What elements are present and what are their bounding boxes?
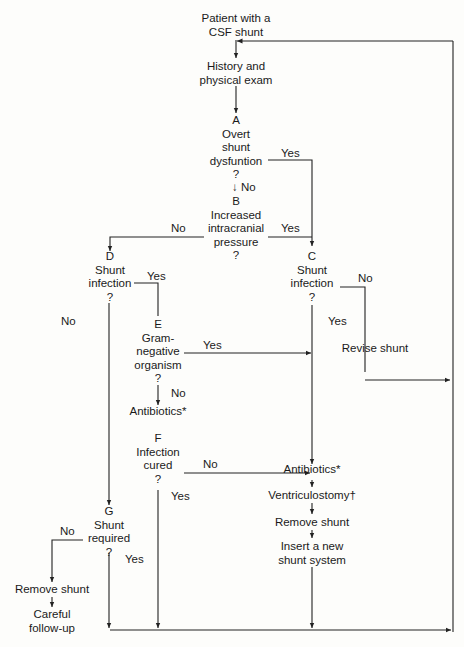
decision-b-letter: B (208, 195, 264, 209)
node-revise-shunt-label: Revise shunt (342, 342, 408, 356)
decision-c-line: Shunt (291, 264, 334, 278)
decision-e-letter: E (134, 318, 181, 332)
node-insert-new-shunt-line: shunt system (278, 554, 346, 568)
decision-c-line: infection (291, 277, 334, 291)
decision-d-letter: D (89, 250, 132, 264)
decision-d: D Shunt infection ? (89, 250, 132, 304)
decision-d-line: ? (89, 291, 132, 305)
edge-label-g-yes: Yes (125, 553, 144, 566)
decision-b-line: pressure (208, 236, 264, 250)
edge-label-d-no: No (61, 315, 76, 328)
flowchart: Patient with a CSF shunt History and phy… (0, 0, 464, 647)
decision-f-letter: F (136, 432, 179, 446)
node-start-line: Patient with a (201, 12, 270, 26)
decision-a-line: dysfuntion (210, 155, 262, 169)
decision-d-line: Shunt (89, 264, 132, 278)
edge-label-g-no: No (60, 525, 75, 538)
edge-label-f-yes: Yes (171, 490, 190, 503)
decision-c: C Shunt infection ? (291, 250, 334, 304)
decision-f-line: Infection (136, 446, 179, 460)
decision-e: E Gram- negative organism ? (134, 318, 181, 386)
decision-e-line: organism (134, 359, 181, 373)
node-start-line: CSF shunt (201, 26, 270, 40)
decision-g: G Shunt required ? (88, 505, 130, 559)
decision-g-line: required (88, 532, 130, 546)
decision-a-line: ? (210, 168, 262, 182)
edge-label-a-no: ↓ No (232, 181, 256, 194)
edge-label-f-no: No (203, 458, 218, 471)
node-careful-follow-up-line: follow-up (29, 622, 75, 636)
decision-f: F Infection cured ? (136, 432, 179, 486)
node-remove-shunt-c: Remove shunt (275, 516, 349, 530)
decision-g-letter: G (88, 505, 130, 519)
node-start: Patient with a CSF shunt (201, 12, 270, 39)
decision-b-line: Increased (208, 209, 264, 223)
decision-c-letter: C (291, 250, 334, 264)
decision-e-line: ? (134, 372, 181, 386)
edge-label-b-no: No (171, 222, 186, 235)
edge-label-c-no: No (358, 272, 373, 285)
edge-label-d-yes: Yes (147, 270, 166, 283)
decision-e-line: negative (134, 345, 181, 359)
decision-a-line: Overt (210, 128, 262, 142)
node-ventriculostomy-label: Ventriculostomy† (268, 489, 356, 503)
edge-label-e-yes: Yes (203, 339, 222, 352)
edge-label-c-yes: Yes (328, 315, 347, 328)
edge-label-a-yes: Yes (281, 147, 300, 160)
node-history-line: History and (200, 60, 273, 74)
node-antibiotics-e: Antibiotics* (130, 405, 187, 419)
decision-f-line: ? (136, 473, 179, 487)
node-remove-shunt-g-label: Remove shunt (15, 583, 89, 597)
node-remove-shunt-g: Remove shunt (15, 583, 89, 597)
decision-a: A Overt shunt dysfuntion ? (210, 114, 262, 182)
node-history: History and physical exam (200, 60, 273, 87)
decision-c-line: ? (291, 291, 334, 305)
node-insert-new-shunt: Insert a new shunt system (278, 540, 346, 567)
decision-e-line: Gram- (134, 332, 181, 346)
decision-d-line: infection (89, 277, 132, 291)
decision-f-line: cured (136, 459, 179, 473)
decision-g-line: Shunt (88, 519, 130, 533)
decision-a-line: shunt (210, 141, 262, 155)
node-revise-shunt: Revise shunt (342, 342, 408, 356)
decision-g-line: ? (88, 546, 130, 560)
node-antibiotics-c-label: Antibiotics* (284, 463, 341, 477)
node-history-line: physical exam (200, 74, 273, 88)
decision-b-line: intracranial (208, 222, 264, 236)
node-careful-follow-up-line: Careful (29, 608, 75, 622)
node-antibiotics-e-label: Antibiotics* (130, 405, 187, 419)
node-remove-shunt-c-label: Remove shunt (275, 516, 349, 530)
decision-a-letter: A (210, 114, 262, 128)
node-antibiotics-c: Antibiotics* (284, 463, 341, 477)
decision-b-line: ? (208, 249, 264, 263)
node-insert-new-shunt-line: Insert a new (278, 540, 346, 554)
edge-label-e-no: No (171, 387, 186, 400)
edge-label-b-yes: Yes (281, 222, 300, 235)
node-ventriculostomy: Ventriculostomy† (268, 489, 356, 503)
node-careful-follow-up: Careful follow-up (29, 608, 75, 635)
decision-b: B Increased intracranial pressure ? (208, 195, 264, 263)
